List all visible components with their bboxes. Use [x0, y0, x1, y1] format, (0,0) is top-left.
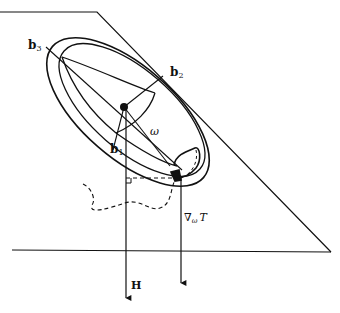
omega-axis: [124, 107, 170, 166]
plane: [0, 12, 331, 252]
label-H: H: [131, 279, 141, 292]
plane-top-edge: [0, 12, 331, 252]
label-omega: ω: [150, 125, 159, 138]
label-b2: b2: [170, 65, 183, 80]
contact-point: [171, 170, 181, 181]
right-angle-marker: [126, 178, 131, 183]
ellipsoid-on-plane-diagram: b3 b2 b1 ω H ∇ωT: [0, 0, 340, 313]
plane-bottom-edge: [12, 250, 331, 252]
label-grad-T: ∇ωT: [184, 211, 208, 225]
label-b3: b3: [28, 38, 41, 53]
center-of-mass: [120, 103, 128, 111]
wavy-path: [83, 180, 175, 210]
label-b1: b1: [110, 142, 123, 157]
axis-b2: [124, 76, 163, 107]
